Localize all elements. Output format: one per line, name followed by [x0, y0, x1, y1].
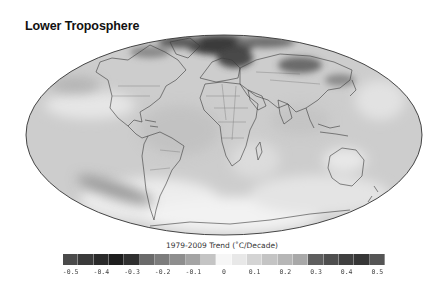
- colorbar-segment: [293, 254, 308, 265]
- trend-field: [20, 30, 430, 240]
- colorbar-tick-label: -0.5: [63, 268, 79, 276]
- colorbar-segment: [201, 254, 216, 265]
- colorbar-segment: [370, 254, 385, 265]
- colorbar-segment: [216, 254, 231, 265]
- colorbar-segment: [140, 254, 155, 265]
- colorbar-tick-label: -0.2: [155, 268, 171, 276]
- colorbar-tick-label: 0.1: [249, 268, 261, 276]
- world-map: [0, 0, 444, 245]
- colorbar-segment: [247, 254, 262, 265]
- colorbar-segment: [354, 254, 369, 265]
- colorbar-segment: [170, 254, 185, 265]
- colorbar-segment: [155, 254, 170, 265]
- colorbar-segment: [63, 254, 78, 265]
- colorbar-segment: [94, 254, 109, 265]
- colorbar-tick-label: 0: [222, 268, 226, 276]
- colorbar-segment: [324, 254, 339, 265]
- colorbar-segment: [78, 254, 93, 265]
- colorbar-tick-label: 0.5: [371, 268, 383, 276]
- colorbar-label: 1979-2009 Trend (˚C/Decade): [0, 241, 444, 250]
- colorbar-segment: [186, 254, 201, 265]
- colorbar-tick-label: 0.3: [310, 268, 322, 276]
- colorbar-segment: [278, 254, 293, 265]
- colorbar-segment: [124, 254, 139, 265]
- colorbar-segment: [232, 254, 247, 265]
- colorbar-tick-label: 0.4: [341, 268, 353, 276]
- colorbar-tick-label: -0.1: [186, 268, 202, 276]
- colorbar-ticks: -0.5-0.4-0.3-0.2-0.100.10.20.30.40.5: [63, 268, 385, 278]
- colorbar-segment: [308, 254, 323, 265]
- colorbar-tick-label: -0.4: [94, 268, 110, 276]
- colorbar-tick-label: 0.2: [279, 268, 291, 276]
- colorbar-segment: [109, 254, 124, 265]
- colorbar-segment: [262, 254, 277, 265]
- colorbar-segment: [339, 254, 354, 265]
- colorbar: [63, 254, 385, 265]
- colorbar-tick-label: -0.3: [124, 268, 140, 276]
